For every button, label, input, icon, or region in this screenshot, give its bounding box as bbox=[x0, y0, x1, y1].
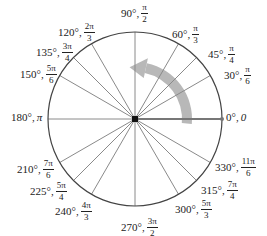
degree-value: 135°, bbox=[36, 47, 60, 58]
radian-fraction: 7π4 bbox=[227, 180, 238, 201]
radian-numerator: 7π bbox=[227, 180, 238, 191]
degree-value: 225°, bbox=[30, 186, 54, 197]
radian-numerator: 4π bbox=[81, 201, 92, 212]
radian-fraction: 7π6 bbox=[43, 159, 54, 180]
degree-value: 180°, bbox=[11, 112, 35, 123]
radian-fraction: π3 bbox=[192, 24, 199, 45]
radian-denominator: 2 bbox=[142, 14, 147, 24]
radian-numerator: π bbox=[141, 3, 148, 14]
degree-value: 330°, bbox=[215, 162, 239, 173]
degree-value: 120°, bbox=[58, 27, 82, 38]
radian-numerator: 3π bbox=[147, 217, 158, 228]
degree-value: 270°, bbox=[121, 222, 145, 233]
angle-label-315: 315°,7π4 bbox=[201, 180, 238, 201]
radian-fraction: 11π6 bbox=[241, 157, 256, 178]
radian-fraction: 4π3 bbox=[81, 201, 92, 222]
radian-numerator: 11π bbox=[241, 157, 256, 168]
angle-label-150: 150°,5π6 bbox=[20, 64, 57, 85]
degree-value: 315°, bbox=[201, 185, 225, 196]
radian-denominator: 6 bbox=[46, 170, 51, 180]
angle-label-330: 330°,11π6 bbox=[215, 157, 256, 178]
angle-label-0: 0°,0 bbox=[226, 112, 246, 123]
angle-label-30: 30°,π6 bbox=[224, 65, 251, 86]
radian-denominator: 6 bbox=[246, 168, 251, 178]
angle-label-45: 45°,π4 bbox=[208, 44, 235, 65]
radian-numerator: π bbox=[244, 65, 251, 76]
origin-point bbox=[132, 116, 138, 122]
radian-fraction: 5π3 bbox=[201, 199, 212, 220]
radian-fraction: 5π6 bbox=[46, 64, 57, 85]
radian-denominator: 3 bbox=[204, 210, 209, 220]
angle-label-90: 90°,π2 bbox=[121, 3, 148, 24]
radian-denominator: 4 bbox=[229, 55, 234, 65]
radian-fraction: 3π2 bbox=[147, 217, 158, 236]
radian-numerator: 7π bbox=[43, 159, 54, 170]
angle-label-270: 270°,3π2 bbox=[121, 217, 158, 236]
radian-denominator: 3 bbox=[87, 33, 92, 43]
arrow-head-icon bbox=[130, 58, 148, 78]
degree-value: 240°, bbox=[55, 206, 79, 217]
initial-ray-endpoint bbox=[220, 117, 224, 121]
angle-label-60: 60°,π3 bbox=[172, 24, 199, 45]
angle-label-300: 300°,5π3 bbox=[175, 199, 212, 220]
angle-label-180: 180°,π bbox=[11, 112, 42, 123]
unit-circle-diagram: 0°,030°,π645°,π460°,π390°,π2120°,2π3135°… bbox=[0, 0, 267, 236]
radian-value: 0 bbox=[241, 112, 247, 123]
radian-denominator: 6 bbox=[245, 76, 250, 86]
degree-value: 150°, bbox=[20, 69, 44, 80]
angle-label-240: 240°,4π3 bbox=[55, 201, 92, 222]
radian-fraction: 2π3 bbox=[84, 22, 95, 43]
radian-denominator: 2 bbox=[150, 228, 155, 236]
radian-fraction: 3π4 bbox=[62, 42, 73, 63]
angle-label-210: 210°,7π6 bbox=[17, 159, 54, 180]
angle-label-120: 120°,2π3 bbox=[58, 22, 95, 43]
degree-value: 45°, bbox=[208, 49, 226, 60]
radian-fraction: π6 bbox=[244, 65, 251, 86]
radian-fraction: π4 bbox=[228, 44, 235, 65]
radian-numerator: 5π bbox=[56, 181, 67, 192]
radian-denominator: 6 bbox=[49, 75, 54, 85]
degree-value: 90°, bbox=[121, 8, 139, 19]
radian-numerator: 2π bbox=[84, 22, 95, 33]
radian-numerator: 3π bbox=[62, 42, 73, 53]
radian-numerator: π bbox=[192, 24, 199, 35]
radian-fraction: 5π4 bbox=[56, 181, 67, 202]
radian-denominator: 3 bbox=[193, 35, 198, 45]
radian-denominator: 4 bbox=[65, 53, 70, 63]
radian-denominator: 4 bbox=[230, 191, 235, 201]
angle-label-225: 225°,5π4 bbox=[30, 181, 67, 202]
radian-denominator: 3 bbox=[84, 212, 89, 222]
radian-numerator: π bbox=[228, 44, 235, 55]
radian-fraction: π2 bbox=[141, 3, 148, 24]
degree-value: 60°, bbox=[172, 29, 190, 40]
degree-value: 210°, bbox=[17, 164, 41, 175]
degree-value: 0°, bbox=[226, 112, 239, 123]
arrow-body bbox=[145, 63, 192, 124]
degree-value: 30°, bbox=[224, 70, 242, 81]
angle-label-135: 135°,3π4 bbox=[36, 42, 73, 63]
radian-value: π bbox=[37, 112, 43, 123]
radian-numerator: 5π bbox=[46, 64, 57, 75]
degree-value: 300°, bbox=[175, 204, 199, 215]
